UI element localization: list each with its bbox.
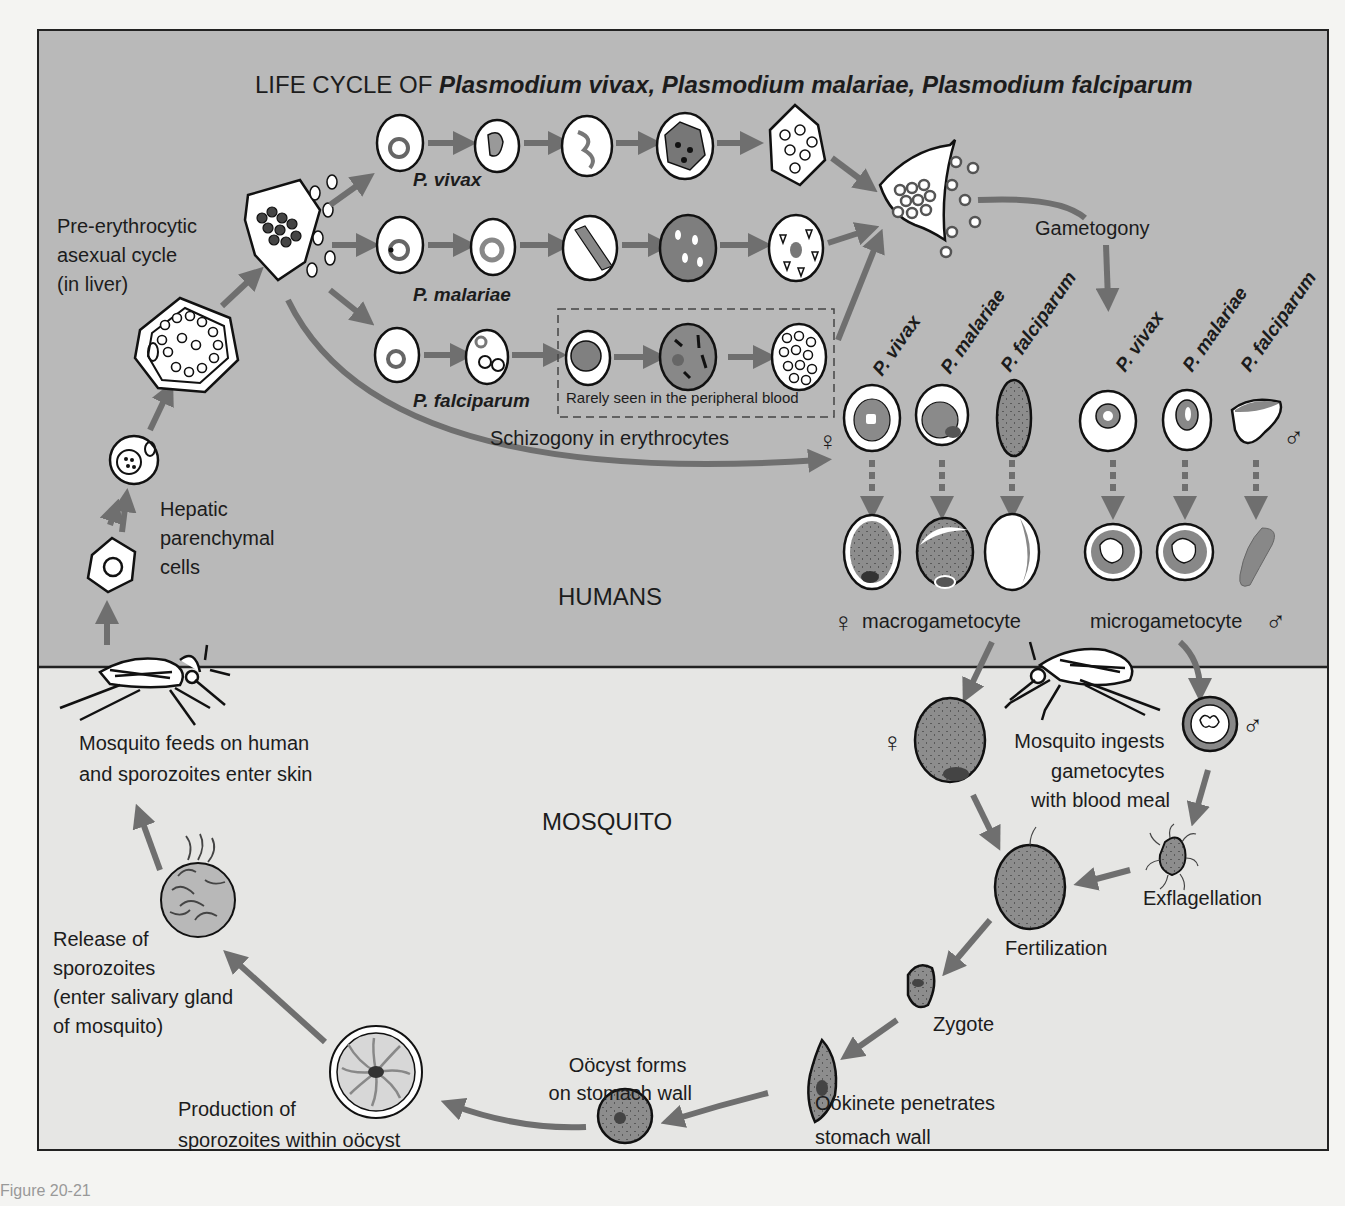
- mature-oocyst: [330, 1026, 422, 1118]
- macrogametocyte-label: macrogametocyte: [862, 610, 1021, 632]
- hepatic-cell-2: [110, 436, 158, 484]
- gametogony-label: Gametogony: [1035, 217, 1150, 239]
- humans-label: HUMANS: [558, 583, 662, 610]
- production-label: Production of: [178, 1098, 296, 1120]
- pre-erythrocytic-label: Pre-erythrocytic: [57, 215, 197, 237]
- microgamete: [1183, 697, 1237, 751]
- schizogony-caption: Schizogony in erythrocytes: [490, 427, 729, 449]
- malaria-life-cycle-diagram: LIFE CYCLE OF Plasmodium vivax, Plasmodi…: [0, 0, 1345, 1206]
- species-label-vivax: P. vivax: [413, 169, 483, 190]
- zygote-cell: [908, 965, 934, 1007]
- hepatic-label: Hepatic: [160, 498, 228, 520]
- female-symbol-macro: ♀: [833, 607, 854, 638]
- zygote-label: Zygote: [933, 1013, 994, 1035]
- figure-caption: Figure 20-21: [0, 1182, 91, 1200]
- microgametocyte-label: microgametocyte: [1090, 610, 1242, 632]
- species-label-malariae: P. malariae: [413, 284, 511, 305]
- male-symbol-micro: ♂: [1265, 606, 1286, 637]
- exflagellation-label: Exflagellation: [1143, 887, 1262, 909]
- rarely-seen-label: Rarely seen in the peripheral blood: [566, 389, 799, 406]
- release-label: Release of: [53, 928, 149, 950]
- female-symbol-mosquito: ♀: [882, 727, 903, 758]
- oocyst-label: Oöcyst forms: [569, 1054, 687, 1076]
- diagram-title: LIFE CYCLE OF Plasmodium vivax, Plasmodi…: [255, 71, 1193, 98]
- species-label-falciparum: P. falciparum: [413, 390, 530, 411]
- female-symbol-top: ♀: [818, 426, 838, 456]
- mosquito-label: MOSQUITO: [542, 808, 672, 835]
- male-symbol-top: ♂: [1283, 422, 1304, 453]
- fertilization-label: Fertilization: [1005, 937, 1107, 959]
- ookinete-label: Oökinete penetrates: [815, 1092, 995, 1114]
- mosquito-ingests-label: Mosquito ingests: [1014, 730, 1164, 752]
- male-symbol-mosquito: ♂: [1242, 710, 1263, 741]
- macrogamete: [915, 698, 985, 782]
- feeds-label: Mosquito feeds on human: [79, 732, 309, 754]
